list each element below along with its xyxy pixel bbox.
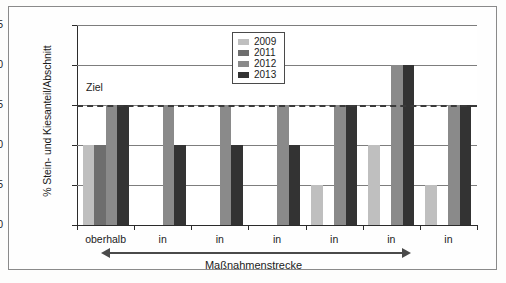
legend-item-2013: 2013	[238, 69, 276, 80]
legend-swatch-2012	[238, 61, 249, 67]
legend-item-2011: 2011	[238, 47, 276, 58]
bar-2013-group-5	[346, 105, 358, 225]
chart-frame: % Stein- und Kiesanteil/Abschnitt 051015…	[8, 6, 497, 270]
bar-2012-group-5	[334, 105, 346, 225]
x-tick-mark-4	[306, 225, 307, 230]
legend-label-2009: 2009	[254, 36, 276, 47]
y-tick-label-20: 20	[0, 59, 3, 70]
x-tick-mark-6	[420, 225, 421, 230]
x-category-label-2: in	[159, 233, 167, 245]
bar-2013-group-2	[174, 145, 186, 225]
x-category-label-4: in	[273, 233, 281, 245]
arrow-shaft	[108, 252, 404, 254]
bar-2011-group-1	[94, 145, 106, 225]
arrow-head-right-icon	[402, 248, 411, 258]
bar-2013-group-6	[403, 65, 415, 225]
y-tick-label-5: 5	[0, 179, 3, 190]
x-category-label-7: in	[444, 233, 452, 245]
x-category-label-1: oberhalb	[85, 233, 126, 245]
y-tick-label-25: 25	[0, 19, 3, 30]
x-tick-mark-3	[248, 225, 249, 230]
y-tick-label-10: 10	[0, 139, 3, 150]
bar-2013-group-1	[117, 105, 129, 225]
bar-2012-group-4	[277, 105, 289, 225]
legend-item-2012: 2012	[238, 58, 276, 69]
bar-2012-group-6	[391, 65, 403, 225]
x-tick-mark-2	[191, 225, 192, 230]
bar-2013-group-7	[460, 105, 472, 225]
x-category-label-6: in	[387, 233, 395, 245]
y-axis-title: % Stein- und Kiesanteil/Abschnitt	[41, 21, 53, 221]
legend-label-2011: 2011	[254, 47, 276, 58]
measure-span-arrow	[101, 248, 411, 258]
x-category-label-3: in	[216, 233, 224, 245]
bar-2009-group-6	[368, 145, 380, 225]
legend-swatch-2009	[238, 39, 249, 45]
x-axis-line	[77, 225, 478, 226]
x-tick-mark-5	[363, 225, 364, 230]
x-category-label-5: in	[330, 233, 338, 245]
legend-item-2009: 2009	[238, 36, 276, 47]
bar-2013-group-4	[289, 145, 301, 225]
bar-2012-group-1	[106, 105, 118, 225]
bar-2012-group-3	[220, 105, 232, 225]
chart-figure: % Stein- und Kiesanteil/Abschnitt 051015…	[0, 0, 506, 283]
bar-2012-group-7	[448, 105, 460, 225]
legend-label-2012: 2012	[254, 58, 276, 69]
x-tick-mark-7	[477, 225, 478, 230]
legend-swatch-2013	[238, 72, 249, 78]
legend-swatch-2011	[238, 50, 249, 56]
y-tick-label-15: 15	[0, 99, 3, 110]
bar-2009-group-1	[83, 145, 95, 225]
bar-2013-group-3	[231, 145, 243, 225]
ziel-target-line	[77, 105, 477, 107]
bar-2009-group-7	[425, 185, 437, 225]
ziel-label: Ziel	[86, 81, 103, 93]
bar-2012-group-2	[163, 105, 175, 225]
y-tick-label-0: 0	[0, 219, 3, 230]
chart-legend: 2009201120122013	[232, 32, 285, 84]
x-tick-mark-1	[134, 225, 135, 230]
x-axis-title: Maßnahmenstrecke	[9, 259, 498, 271]
bar-2009-group-5	[311, 185, 323, 225]
x-tick-mark-0	[77, 225, 78, 230]
legend-label-2013: 2013	[254, 69, 276, 80]
